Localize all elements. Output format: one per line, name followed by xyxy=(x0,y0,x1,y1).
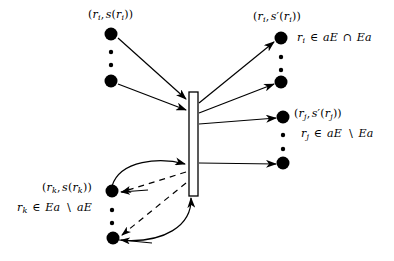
edge-topleft-lower-to-bar xyxy=(118,84,186,110)
incoming-edges-group xyxy=(118,38,186,110)
curved-edges-group xyxy=(112,161,191,241)
dashed-bar-to-bottomleft-upper xyxy=(122,172,186,192)
central-vertical-bar xyxy=(189,92,198,196)
ellipsis-dot xyxy=(109,63,113,67)
dashed-edges-group xyxy=(122,172,186,235)
label-top-right-condition: ri ∈ aE ∩ Ea xyxy=(297,31,372,45)
node-dot xyxy=(107,232,120,245)
bottom-right-node-column xyxy=(277,111,290,170)
ellipsis-dot xyxy=(279,68,283,72)
curve-bottomleft-upper-to-bar xyxy=(112,161,185,186)
ellipsis-dot xyxy=(110,208,114,212)
bottom-left-node-column xyxy=(106,185,120,245)
edge-bar-to-topright-2 xyxy=(199,84,274,113)
ellipsis-dot xyxy=(109,50,113,54)
label-mid-right-pair: (rj, s′(rj)) xyxy=(294,107,342,121)
edge-topleft-upper-to-bar xyxy=(118,38,186,99)
edge-bar-to-midright-2 xyxy=(199,163,276,164)
edge-bar-to-topright-1 xyxy=(199,42,274,103)
node-dot xyxy=(277,111,290,124)
ellipsis-dot xyxy=(110,221,114,225)
node-dot xyxy=(105,75,118,88)
top-left-node-column xyxy=(105,28,118,88)
node-dot xyxy=(275,32,288,45)
node-dot xyxy=(106,185,119,198)
edge-stub-to-bottomleft-upper xyxy=(121,190,148,192)
ellipsis-dot xyxy=(281,133,285,137)
label-bottom-left-pair: (rk, s(rk)) xyxy=(42,181,92,195)
ellipsis-dot xyxy=(281,147,285,151)
outgoing-edges-group xyxy=(199,42,276,164)
label-top-right-pair: (ri, s′(ri)) xyxy=(253,10,301,24)
top-right-node-column xyxy=(275,32,288,89)
node-dot xyxy=(105,28,118,41)
label-bottom-left-condition: rk ∈ Ea ∖ aE xyxy=(17,201,92,215)
edge-bar-to-midright-1 xyxy=(199,118,276,124)
curve-bottomleft-lower-to-bar xyxy=(119,198,191,241)
node-dot xyxy=(275,76,288,89)
ellipsis-dot xyxy=(279,55,283,59)
mapping-diagram: (ri, s(ri)) (ri, s′(ri)) ri ∈ aE ∩ Ea (r… xyxy=(0,0,394,261)
label-mid-right-condition: rj ∈ aE ∖ Ea xyxy=(301,127,374,141)
node-dot xyxy=(277,157,290,170)
label-top-left-pair: (ri, s(ri)) xyxy=(88,8,133,22)
